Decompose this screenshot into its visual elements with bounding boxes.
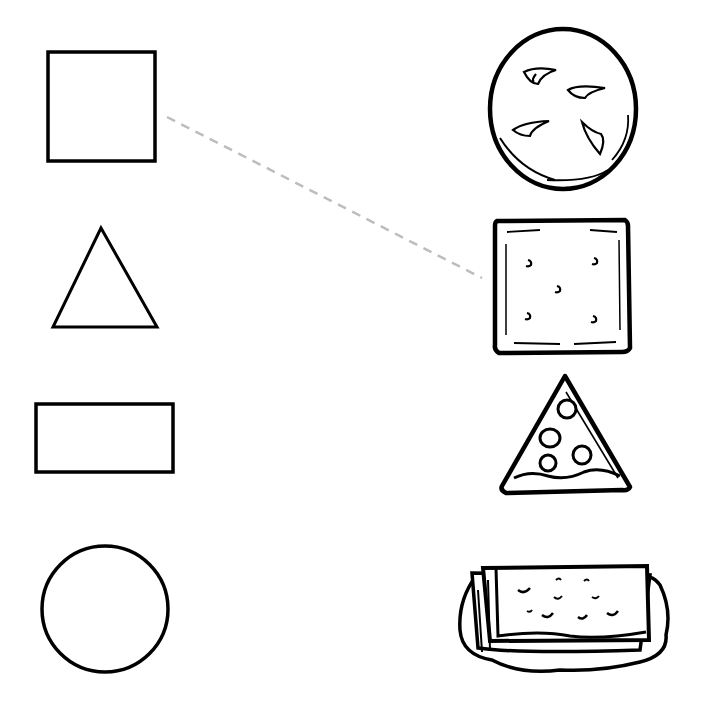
shape-triangle[interactable] [53, 228, 157, 327]
food-cracker[interactable] [495, 220, 630, 353]
shape-circle[interactable] [42, 546, 168, 672]
connector-line [167, 117, 482, 278]
food-cookie[interactable] [490, 29, 636, 189]
shape-square[interactable] [48, 52, 155, 161]
food-pizza[interactable] [502, 376, 631, 493]
shape-rectangle[interactable] [36, 404, 173, 472]
food-sandwich[interactable] [460, 566, 668, 671]
